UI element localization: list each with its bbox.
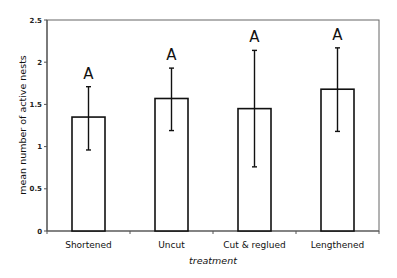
bar-chart: 00.511.522.5 AAAA ShortenedUncutCut & re…: [0, 0, 397, 278]
category-label: Uncut: [158, 240, 185, 250]
y-tick-label: 1: [37, 143, 42, 151]
y-tick-label: 0.5: [30, 185, 43, 193]
y-axis-title: mean number of active nests: [17, 55, 28, 195]
significance-letter: A: [166, 46, 177, 64]
significance-letter: A: [332, 26, 343, 44]
y-tick-label: 1.5: [30, 101, 43, 109]
category-label: Cut & reglued: [223, 240, 285, 250]
y-tick-label: 2.5: [30, 17, 43, 25]
y-tick-label: 0: [37, 228, 42, 236]
significance-letter: A: [83, 65, 94, 83]
category-label: Lengthened: [311, 240, 365, 250]
x-axis-title: treatment: [189, 255, 238, 266]
category-label: Shortened: [65, 240, 112, 250]
significance-letter: A: [249, 28, 260, 46]
y-tick-label: 2: [37, 59, 42, 67]
